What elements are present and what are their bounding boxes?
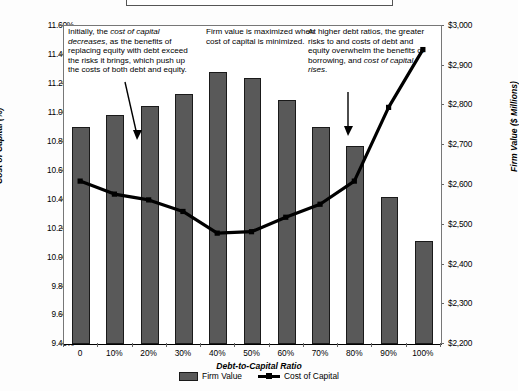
legend-label: Cost of Capital xyxy=(284,371,339,381)
bar-50pct[interactable] xyxy=(244,78,262,344)
x-axis-tick-label: 100% xyxy=(403,348,443,358)
left-axis-title: Cost of Capital (%) xyxy=(0,108,4,184)
chart-legend: Firm Value Cost of Capital xyxy=(0,371,518,381)
annotation-emphasis: cost of capital xyxy=(110,27,160,36)
right-axis-tick-label: $2,600 xyxy=(448,179,504,189)
title-box-cropped xyxy=(126,0,393,6)
bar-70pct[interactable] xyxy=(312,127,330,344)
x-axis-tick xyxy=(406,343,407,347)
annotation-text: . xyxy=(325,65,327,74)
x-axis-tick xyxy=(269,343,270,347)
bar-20pct[interactable] xyxy=(141,106,159,344)
x-axis-tick xyxy=(200,343,201,347)
x-axis-tick xyxy=(234,343,235,347)
right-axis-tick-label: $2,500 xyxy=(448,219,504,229)
x-axis-tick xyxy=(440,343,441,347)
annotation-initial-decrease: Initially, the cost of capital decreases… xyxy=(68,27,196,75)
bar-100pct[interactable] xyxy=(415,241,433,344)
x-axis-tick xyxy=(337,343,338,347)
right-axis-tick-label: $2,700 xyxy=(448,139,504,149)
x-axis-tick xyxy=(97,343,98,347)
bar-10pct[interactable] xyxy=(106,115,124,344)
x-axis-title: Debt-to-Capital Ratio xyxy=(0,361,518,371)
bar-30pct[interactable] xyxy=(175,94,193,344)
right-axis-tick-label: $2,200 xyxy=(448,338,504,348)
bar-60pct[interactable] xyxy=(278,100,296,344)
x-axis-tick xyxy=(303,343,304,347)
legend-item-cost-of-capital[interactable]: Cost of Capital xyxy=(258,371,339,381)
right-axis-tick-label: $3,000 xyxy=(448,20,504,30)
right-axis-tick-label: $2,900 xyxy=(448,60,504,70)
bar-0[interactable] xyxy=(72,127,90,344)
x-axis-tick xyxy=(371,343,372,347)
bar-90pct[interactable] xyxy=(381,197,399,344)
x-axis-tick xyxy=(132,343,133,347)
right-axis-title: Firm Value ($ Millions) xyxy=(509,81,519,172)
legend-label: Firm Value xyxy=(202,371,242,381)
x-axis-tick xyxy=(166,343,167,347)
annotation-emphasis: decreases xyxy=(68,37,105,46)
x-axis-tick xyxy=(63,343,64,347)
right-axis-tick-label: $2,800 xyxy=(448,99,504,109)
right-axis-tick-label: $2,400 xyxy=(448,259,504,269)
annotation-higher-debt-ratios: At higher debt ratios, the greater risks… xyxy=(308,27,430,75)
annotation-text: Initially, the xyxy=(68,27,110,36)
annotation-firm-value-maximized: Firm value is maximized when cost of cap… xyxy=(206,27,316,46)
bar-40pct[interactable] xyxy=(209,72,227,344)
legend-item-firm-value[interactable]: Firm Value xyxy=(179,371,242,381)
annotation-text: Firm value is maximized when cost of cap… xyxy=(206,27,314,46)
right-axis-tick-label: $2,300 xyxy=(448,298,504,308)
bar-80pct[interactable] xyxy=(346,146,364,344)
bar-swatch-icon xyxy=(179,372,198,381)
line-swatch-icon xyxy=(258,372,280,380)
